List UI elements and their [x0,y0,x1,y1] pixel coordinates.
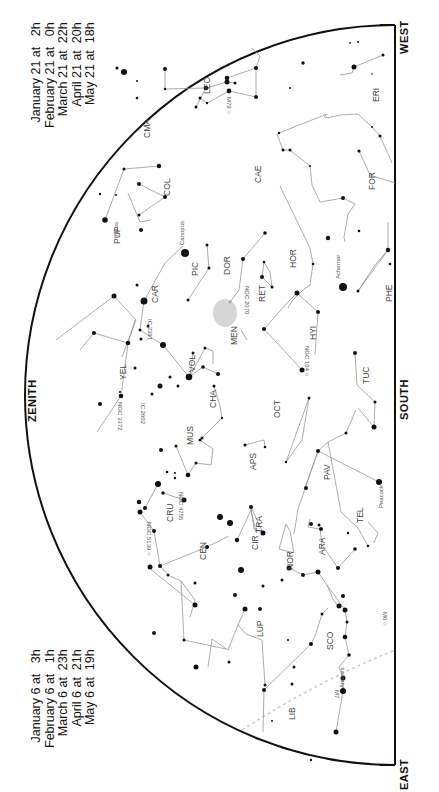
svg-text:Naos: Naos [113,222,119,236]
svg-text:CIR: CIR [250,535,260,550]
svg-text:MUS: MUS [185,426,195,445]
svg-text:HOR: HOR [288,249,298,268]
svg-text:FOR: FOR [367,172,377,190]
east-label: EAST [398,759,410,790]
svg-text:SCO: SCO [325,631,335,650]
svg-text:M7: M7 [334,690,340,699]
label-leo: LEO [202,77,212,94]
svg-text:CEN: CEN [198,542,208,560]
lmc-nebula [213,299,237,327]
svg-text:NOR: NOR [285,551,295,570]
svg-text:CHA: CHA [208,390,218,408]
svg-text:NGC 5139 ○: NGC 5139 ○ [146,522,152,556]
svg-text:PIC: PIC [190,262,200,276]
svg-text:MEN: MEN [229,326,239,345]
svg-text:PHE: PHE [384,284,394,302]
svg-text:LIB: LIB [287,707,297,720]
svg-text:YEL: YEL [118,364,128,380]
svg-text:CRU: CRU [165,504,175,522]
svg-text:TEL: TEL [355,507,365,523]
svg-text:M79 ○: M79 ○ [226,97,232,114]
svg-text:RET: RET [257,285,267,302]
svg-text:CMA: CMA [142,119,152,138]
svg-text:PAV: PAV [322,464,332,480]
svg-text:CAE: CAE [253,165,263,183]
svg-text:Canopus: Canopus [179,221,185,245]
svg-text:NGC 2070: NGC 2070 [244,286,250,315]
svg-text:LUP: LUP [255,620,265,637]
south-label: SOUTH [398,379,410,420]
svg-text:DOR: DOR [222,256,232,275]
svg-text:ERI: ERI [371,88,381,102]
constellation-labels: LEO CMA ERI COL CAE FOR PUP CAR PIC DOR … [112,77,394,720]
svg-text:Antares: Antares [339,667,345,688]
svg-text:TRA: TRA [254,516,264,533]
times-west: January 21 at 2hFebruary 21 at 0hMarch 2… [30,22,98,128]
svg-text:IC 2391: IC 2391 [147,319,153,341]
svg-text:NGC 4755: NGC 4755 [178,492,184,521]
svg-text:VOL: VOL [187,355,197,372]
zenith-label: ZENITH [26,379,38,422]
stars [92,41,391,761]
constellation-lines [56,48,395,732]
svg-text:NGC 3372: NGC 3372 [117,402,123,431]
svg-text:Achernar: Achernar [335,255,341,279]
west-label: WEST [398,20,410,54]
svg-text:M6 ○: M6 ○ [382,612,388,626]
dso-labels: M79 ○ NGC 2070 NGC 104 ○ IC 2391 NGC 337… [117,97,388,699]
svg-text:CAR: CAR [150,285,160,303]
svg-text:TUC: TUC [361,367,371,384]
svg-text:IC 2602: IC 2602 [140,403,146,425]
svg-text:HYI: HYI [308,326,318,340]
svg-text:OCT: OCT [272,400,282,418]
svg-text:NGC 104 ○: NGC 104 ○ [304,346,310,377]
svg-text:ARA: ARA [317,537,327,555]
svg-text:APS: APS [248,453,258,470]
svg-text:COL: COL [162,178,172,196]
svg-text:Peacock: Peacock [378,484,384,508]
times-east: January 6 at 3hFebruary 6 at 1hMarch 6 a… [30,649,98,748]
